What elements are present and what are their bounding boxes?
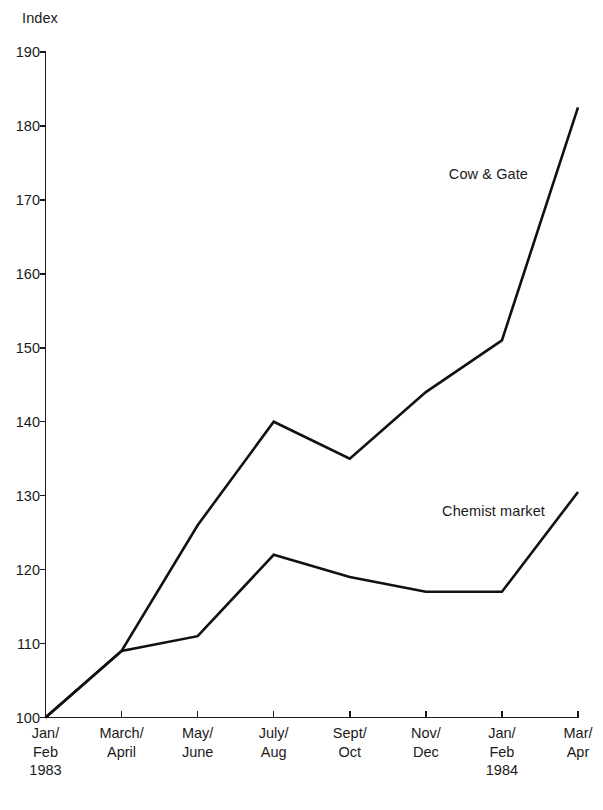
x-tick-label-line: 1983	[0, 761, 106, 780]
series-line-cow-gate	[46, 107, 579, 717]
x-tick-label-line: 1984	[442, 761, 562, 780]
y-tick-label: 130	[2, 489, 40, 504]
series-annotation-cow-gate: Cow & Gate	[449, 166, 528, 182]
x-tick-label-line: Mar/	[518, 724, 603, 743]
y-axis-ticks	[40, 52, 46, 718]
series-layer	[46, 107, 579, 717]
y-tick-label: 160	[2, 267, 40, 282]
plot-surface	[0, 0, 603, 810]
x-tick-label-line: Apr	[518, 743, 603, 762]
axis-layer	[40, 52, 579, 718]
y-tick-label: 150	[2, 341, 40, 356]
y-tick-label: 180	[2, 119, 40, 134]
y-tick-label: 110	[2, 637, 40, 652]
x-axis-ticks	[122, 711, 578, 718]
index-line-chart: Index 190180170160150140130120110100 Jan…	[0, 0, 603, 810]
y-tick-label: 170	[2, 193, 40, 208]
x-tick-label: Mar/Apr	[518, 724, 603, 761]
series-annotation-chemist-market: Chemist market	[442, 503, 545, 519]
y-tick-label: 120	[2, 563, 40, 578]
y-tick-label: 100	[2, 711, 40, 726]
series-line-chemist-market	[46, 492, 579, 718]
y-tick-label: 190	[2, 45, 40, 60]
y-tick-label: 140	[2, 415, 40, 430]
